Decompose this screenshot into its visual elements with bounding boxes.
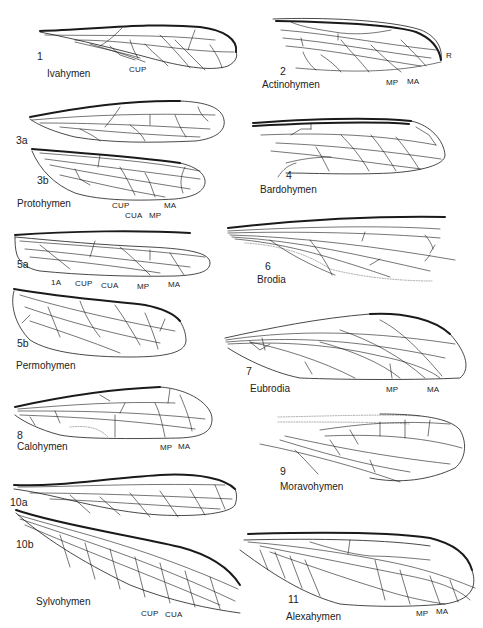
vein-label-mp: MP: [137, 283, 149, 291]
wing-drawing-5a: [0, 225, 241, 280]
vein-label-ma: MA: [436, 608, 448, 616]
wing-panel-3a: 3a: [0, 95, 241, 150]
vein-label-ma: MA: [427, 386, 439, 394]
vein-label-cua: CUA: [125, 212, 143, 220]
genus-label: Sylvohymen: [36, 597, 90, 607]
panel-number: 7: [246, 366, 252, 377]
wing-panel-7: 7 Eubrodia MP MA: [220, 300, 483, 400]
panel-number: 11: [288, 594, 299, 605]
vein-label-ma: MA: [407, 78, 419, 86]
genus-label: Moravohymen: [280, 482, 343, 492]
wing-panel-4: 4 Bardohymen: [241, 105, 483, 200]
vein-label-cua: CUA: [101, 282, 119, 290]
wing-drawing-sylvohymen: [0, 505, 241, 628]
vein-label-ma: MA: [178, 443, 190, 451]
vein-label-mp: MP: [386, 386, 398, 394]
genus-label: Bardohymen: [260, 185, 317, 195]
wing-panel-1: 1 Ivahymen CUP: [0, 0, 241, 110]
genus-label: Permohymen: [16, 361, 75, 371]
vein-label-mp: MP: [160, 444, 172, 452]
vein-label-r: R: [446, 52, 452, 60]
panel-number: 3b: [37, 175, 49, 186]
genus-label: Brodia: [257, 275, 286, 285]
wing-panel-11: 11 Alexahymen MP MA: [230, 500, 483, 628]
vein-label-ma: MA: [168, 281, 180, 289]
panel-number: 8: [17, 430, 23, 441]
vein-label-mp: MP: [386, 79, 398, 87]
vein-label-1a: 1A: [51, 279, 61, 287]
wing-panel-9: 9 Moravohymen: [250, 400, 483, 500]
wing-panel-2: 2 Actinohymen MP MA R: [241, 0, 483, 100]
wing-drawing-3a: [0, 95, 241, 150]
panel-number: 1: [37, 51, 43, 62]
wing-panel-10b: 10b Sylvohymen CUP CUA: [0, 505, 241, 628]
vein-label-cua: CUA: [165, 611, 183, 619]
genus-label: Eubrodia: [250, 384, 290, 394]
vein-label-cup: CUP: [75, 280, 93, 288]
genus-label: Ivahymen: [47, 69, 90, 79]
wing-panel-5a: 5a: [0, 225, 241, 280]
genus-label: Calohymen: [17, 442, 68, 452]
wing-panel-5b: 1A CUP CUA MP MA 5b Permohymen: [0, 275, 241, 375]
vein-label-cup: CUP: [141, 610, 159, 618]
wing-panel-3b: 3b Protohymen CUP CUA MP MA: [0, 145, 241, 225]
vein-label-mp: MP: [149, 212, 161, 220]
panel-number: 5a: [17, 259, 29, 270]
panel-number: 2: [280, 66, 286, 77]
genus-label: Protohymen: [17, 199, 71, 209]
genus-label: Alexahymen: [286, 612, 341, 622]
vein-label-ma: MA: [164, 202, 176, 210]
vein-label-cup: CUP: [129, 66, 147, 74]
genus-label: Actinohymen: [262, 80, 320, 90]
panel-number: 6: [265, 261, 271, 272]
panel-number: 9: [280, 466, 286, 477]
panel-number: 3a: [16, 135, 28, 146]
panel-number: 5b: [17, 338, 29, 349]
wing-drawing-brodia: [220, 205, 483, 300]
vein-label-cup: CUP: [112, 202, 130, 210]
panel-number: 10b: [16, 539, 34, 550]
wing-panel-6: 6 Brodia: [220, 205, 483, 300]
vein-label-mp: MP: [416, 610, 428, 618]
wing-panel-8: 8 Calohymen MP MA: [0, 375, 241, 465]
panel-number: 4: [286, 170, 292, 181]
